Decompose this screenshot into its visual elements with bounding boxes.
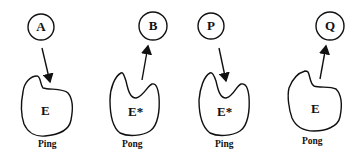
arrow-p-to-e-star xyxy=(219,48,226,81)
arrow-e-to-b xyxy=(142,46,148,80)
caption-ping-1: Ping xyxy=(38,139,56,149)
substrate-label-a: A xyxy=(29,19,53,35)
caption-pong-1: Pong xyxy=(122,139,143,149)
enzyme-label-e-2: E xyxy=(311,101,320,117)
caption-ping-2: Ping xyxy=(215,139,233,149)
enzyme-label-e-star-2: E* xyxy=(217,104,232,120)
product-label-b: B xyxy=(141,18,165,34)
enzyme-label-e-star: E* xyxy=(128,104,143,120)
arrow-e-to-q xyxy=(320,46,326,79)
product-label-q: Q xyxy=(318,18,342,34)
caption-pong-2: Pong xyxy=(302,136,323,146)
substrate-label-p: P xyxy=(199,18,223,34)
enzyme-label-e: E xyxy=(41,103,50,119)
arrow-a-to-e xyxy=(42,48,50,82)
